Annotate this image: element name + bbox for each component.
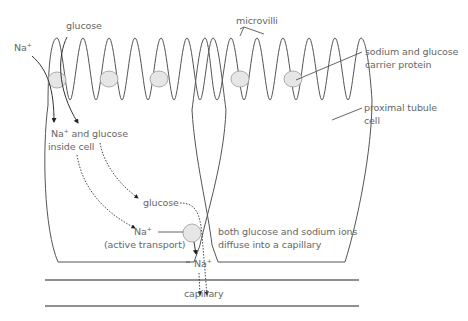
label-carrier-protein-2: carrier protein [365, 58, 431, 71]
na-exit-arrow [194, 242, 196, 254]
na-inside-arrow [77, 155, 135, 228]
label-inside-cell-1: Na+ and glucose [51, 127, 128, 140]
label-diffuse-2: diffuse into a capillary [218, 238, 321, 251]
carrier-protein-basal [183, 224, 201, 242]
label-glucose-mid: glucose [143, 196, 179, 209]
label-inside-cell-2: inside cell [48, 140, 94, 153]
glucose-inside-arrow [100, 143, 138, 198]
diagram-canvas: glucose Na+ microvilli sodium and glucos… [0, 0, 468, 321]
carrier-protein-2 [100, 71, 118, 87]
label-diffuse-1: both glucose and sodium ions [218, 225, 357, 238]
label-capillary: capillary [184, 287, 223, 300]
left-cell-microvilli [48, 38, 226, 110]
microvilli-pointer [240, 27, 264, 36]
label-microvilli: microvilli [236, 14, 278, 27]
label-na-top: Na+ [14, 41, 32, 54]
label-glucose-top: glucose [66, 19, 102, 32]
label-carrier-protein-1: sodium and glucose [365, 45, 458, 58]
label-proximal-cell-2: cell [364, 114, 380, 127]
carrier-protein-4 [231, 71, 249, 87]
na-entry-arrow [32, 56, 54, 122]
carrier-protein-3 [150, 71, 168, 87]
label-active-transport: (active transport) [104, 238, 185, 251]
carrier-protein-1 [48, 72, 66, 88]
label-proximal-cell-1: proximal tubule [364, 101, 437, 114]
proximal-cell-pointer [332, 108, 362, 120]
label-na-bottom: Na+ [194, 257, 212, 270]
label-na-active: Na+ [134, 225, 152, 238]
carrier-protein-pointer [296, 52, 362, 80]
right-cell-microvilli [192, 38, 372, 110]
